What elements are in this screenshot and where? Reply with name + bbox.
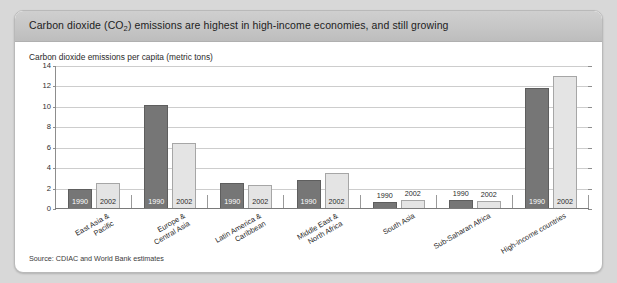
gridline	[56, 148, 588, 149]
chart-title: Carbon dioxide (CO2) emissions are highe…	[29, 19, 449, 31]
bar-value-label: 2002	[402, 190, 424, 198]
category-separator	[436, 195, 437, 209]
y-axis-tick-mark-right	[588, 86, 592, 87]
y-axis-tick-mark-right	[588, 127, 592, 128]
category-separator	[512, 195, 513, 209]
gridline	[56, 107, 588, 108]
y-axis-tick-label: 10	[29, 102, 51, 111]
gridline	[56, 168, 588, 169]
bar-1990-europe-central-asia: 1990	[144, 105, 168, 209]
bar-value-label: 1990	[374, 192, 396, 200]
y-axis-tick-mark	[53, 209, 56, 210]
x-axis-label-east-asia-pacific: East Asia &Pacific	[74, 212, 115, 246]
y-axis-tick-label: 2	[29, 184, 51, 193]
bar-2002-europe-central-asia: 2002	[172, 143, 196, 209]
y-axis-tick-mark	[53, 189, 56, 190]
bar-value-label: 1990	[69, 198, 91, 206]
y-axis-tick-mark	[53, 127, 56, 128]
category-separator	[283, 195, 284, 209]
bar-1990-high-income-countries: 1990	[525, 88, 549, 209]
y-axis-tick-mark-right	[588, 209, 592, 210]
y-axis-tick-mark-right	[588, 107, 592, 108]
x-axis-line	[55, 208, 589, 209]
x-axis-label-latin-america-caribbean: Latin America &Caribbean	[214, 212, 267, 253]
y-axis-tick-mark	[53, 86, 56, 87]
y-axis-tick-label: 14	[29, 61, 51, 70]
chart-source-note: Source: CDIAC and World Bank estimates	[29, 254, 164, 263]
y-axis-tick-mark-right	[588, 189, 592, 190]
chart-subtitle: Carbon dioxide emissions per capita (met…	[29, 52, 213, 62]
category-separator	[131, 195, 132, 209]
x-axis-label-europe-central-asia: Europe &Central Asia	[149, 212, 192, 247]
y-axis-labels: 02468101214	[27, 66, 51, 209]
chart-panel: Carbon dioxide (CO2) emissions are highe…	[14, 10, 603, 273]
y-axis-tick-label: 8	[29, 122, 51, 131]
chart-header-band: Carbon dioxide (CO2) emissions are highe…	[15, 11, 602, 42]
chart-title-part2: ) emissions are highest in high-income e…	[128, 19, 449, 31]
gridline	[56, 189, 588, 190]
bar-value-label: 1990	[526, 198, 548, 206]
bar-2002-high-income-countries: 2002	[553, 76, 577, 209]
bar-value-label: 1990	[450, 190, 472, 198]
plot-area: 1990200219902002199020021990200219902002…	[55, 66, 588, 209]
bar-2002-east-asia-pacific: 2002	[96, 183, 120, 209]
x-axis-label-sub-saharan-africa: Sub-Saharan Africa	[432, 212, 492, 251]
y-axis-tick-label: 12	[29, 81, 51, 90]
y-axis-tick-mark	[53, 107, 56, 108]
bar-value-label: 2002	[326, 198, 348, 206]
chart-title-subscript: 2	[124, 24, 128, 33]
bar-value-label: 1990	[298, 198, 320, 206]
bar-value-label: 2002	[249, 198, 271, 206]
y-axis-tick-mark-right	[588, 148, 592, 149]
bar-value-label: 2002	[554, 198, 576, 206]
bar-1990-latin-america-caribbean: 1990	[220, 183, 244, 209]
y-axis-tick-mark-right	[588, 168, 592, 169]
y-axis-tick-mark	[53, 66, 56, 67]
category-separator	[588, 195, 589, 209]
gridline	[56, 86, 588, 87]
y-axis-tick-label: 6	[29, 143, 51, 152]
y-axis-tick-label: 0	[29, 204, 51, 213]
bar-value-label: 2002	[478, 191, 500, 199]
gridline	[56, 66, 588, 67]
chart-title-part1: Carbon dioxide (CO	[29, 19, 124, 31]
x-axis-label-south-asia: South Asia	[381, 212, 416, 237]
category-separator	[207, 195, 208, 209]
gridline	[56, 127, 588, 128]
bar-1990-middle-east-north-africa: 1990	[297, 180, 321, 209]
bar-value-label: 1990	[145, 198, 167, 206]
y-axis-tick-mark	[53, 148, 56, 149]
bar-value-label: 1990	[221, 198, 243, 206]
category-separator	[360, 195, 361, 209]
bar-1990-east-asia-pacific: 1990	[68, 189, 92, 209]
y-axis-tick-label: 4	[29, 163, 51, 172]
bar-2002-latin-america-caribbean: 2002	[248, 185, 272, 210]
bar-value-label: 2002	[97, 198, 119, 206]
x-axis-label-high-income-countries: High-income countries	[500, 212, 568, 256]
bar-value-label: 2002	[173, 198, 195, 206]
y-axis-tick-mark	[53, 168, 56, 169]
bar-2002-middle-east-north-africa: 2002	[325, 173, 349, 209]
x-axis-label-middle-east-north-africa: Middle East &North Africa	[296, 212, 344, 250]
y-axis-tick-mark-right	[588, 66, 592, 67]
